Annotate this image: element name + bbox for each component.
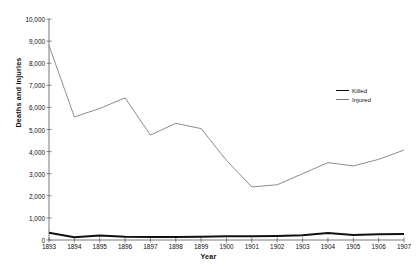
legend-label-killed: Killed [352,86,367,95]
chart-container: Deaths and injuries Year 01,0002,0003,00… [0,0,417,274]
series-line-injured [49,46,404,187]
legend-swatch-killed-icon [336,90,349,91]
legend-label-injured: Injured [352,95,371,104]
legend-item-killed: Killed [336,86,371,95]
legend-swatch-injured-icon [336,99,349,100]
series-line-killed [49,233,404,237]
chart-legend: Killed Injured [336,86,371,104]
plot-area [0,0,417,274]
legend-item-injured: Injured [336,95,371,104]
